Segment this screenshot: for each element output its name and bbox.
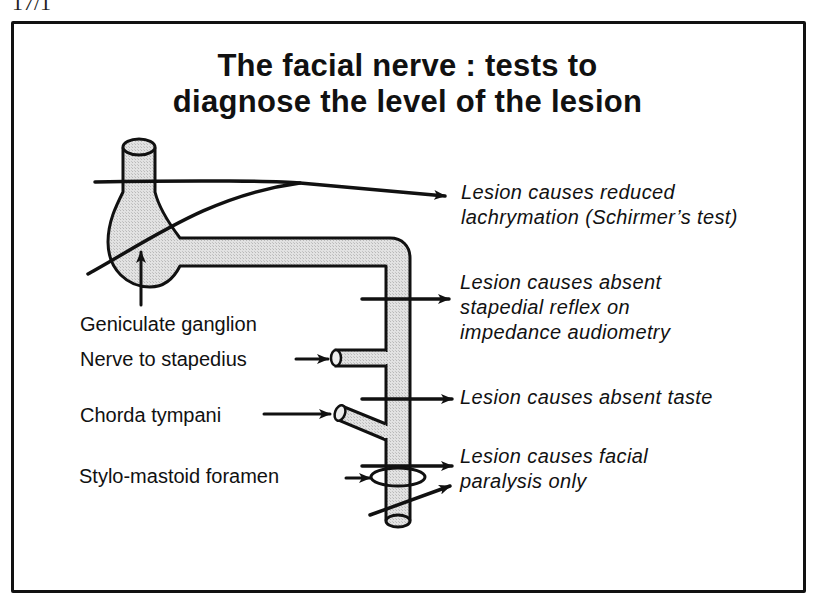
- stapedius-branch: [336, 350, 386, 366]
- label-nerve-to-stapedius: Nerve to stapedius: [80, 347, 247, 371]
- nerve-top-end: [123, 139, 155, 155]
- result-lachrymation: Lesion causes reduced lachrymation (Schi…: [461, 180, 738, 230]
- result-stapedial-reflex: Lesion causes absent stapedial reflex on…: [460, 270, 670, 345]
- label-stylomastoid-foramen: Stylo-mastoid foramen: [79, 464, 279, 488]
- label-chorda-tympani: Chorda tympani: [80, 403, 221, 427]
- facial-nerve-diagram: [0, 0, 815, 601]
- result-absent-taste: Lesion causes absent taste: [460, 385, 713, 410]
- label-geniculate-ganglion: Geniculate ganglion: [80, 312, 257, 336]
- nerve-bottom-end: [386, 515, 410, 527]
- result-facial-paralysis: Lesion causes facial paralysis only: [460, 444, 648, 494]
